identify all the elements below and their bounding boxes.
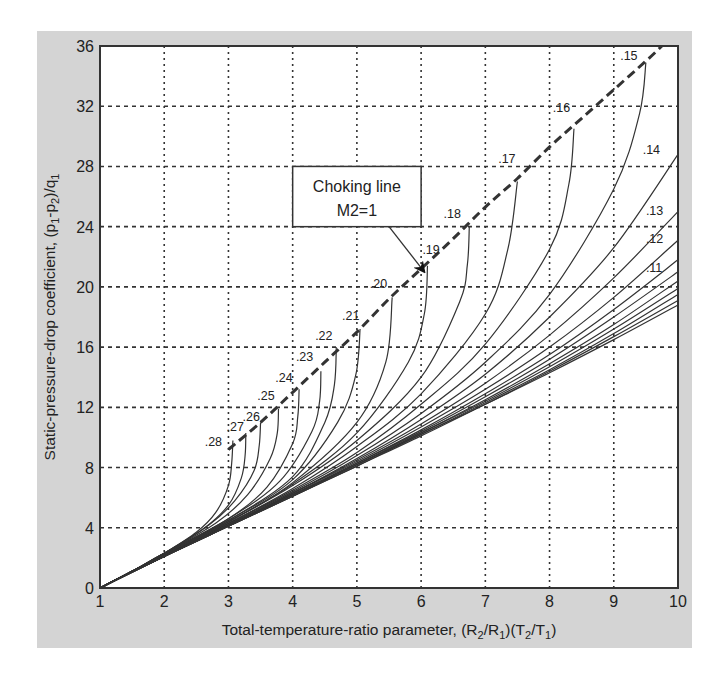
curve-label: .19 xyxy=(422,243,439,257)
y-tick-label: 8 xyxy=(85,460,94,477)
curve-label: .26 xyxy=(243,410,260,424)
curve-label: .17 xyxy=(498,152,515,166)
y-tick-label: 28 xyxy=(76,158,94,175)
curve-label: .16 xyxy=(553,101,570,115)
x-tick-label: 4 xyxy=(288,593,297,610)
curve-label: .18 xyxy=(444,207,461,221)
x-axis-ticks: 12345678910 xyxy=(96,593,687,610)
annotation-text-line1: Choking line xyxy=(313,178,401,195)
y-tick-label: 12 xyxy=(76,399,94,416)
chart: .28.27.26.25.24.23.22.21.20.19.18.17.16.… xyxy=(37,31,692,648)
y-axis-ticks: 04812162024283236 xyxy=(76,38,94,597)
curve-label: .11 xyxy=(646,261,662,275)
x-tick-label: 7 xyxy=(481,593,490,610)
curve-label: .21 xyxy=(342,309,359,323)
y-tick-label: 24 xyxy=(76,219,94,236)
y-tick-label: 16 xyxy=(76,339,94,356)
curve-label: .23 xyxy=(296,350,313,364)
x-tick-label: 10 xyxy=(669,593,687,610)
curve-label: .28 xyxy=(205,435,222,449)
y-tick-label: 0 xyxy=(85,580,94,597)
x-tick-label: 3 xyxy=(224,593,233,610)
y-axis-label: Static-pressure-drop coefficient, (p1-p2… xyxy=(41,174,61,461)
curve-label: .20 xyxy=(370,277,387,291)
curve-label: .27 xyxy=(227,420,244,434)
y-tick-label: 32 xyxy=(76,98,94,115)
y-tick-label: 20 xyxy=(76,279,94,296)
x-tick-label: 2 xyxy=(160,593,169,610)
x-tick-label: 6 xyxy=(417,593,426,610)
figure-panel: .28.27.26.25.24.23.22.21.20.19.18.17.16.… xyxy=(37,31,692,648)
x-tick-label: 8 xyxy=(545,593,554,610)
x-tick-label: 5 xyxy=(352,593,361,610)
y-tick-label: 36 xyxy=(76,38,94,55)
curve-label: .15 xyxy=(620,49,637,63)
curve-label: .14 xyxy=(643,143,660,157)
curve-label: .12 xyxy=(646,232,663,246)
y-tick-label: 4 xyxy=(85,520,94,537)
curve-label: .24 xyxy=(275,371,292,385)
annotation-text-line2: M2=1 xyxy=(337,202,378,219)
plot-area xyxy=(100,46,678,588)
curve-label: .22 xyxy=(315,329,332,343)
curve-label: .13 xyxy=(646,204,663,218)
x-tick-label: 9 xyxy=(609,593,618,610)
x-axis-label: Total-temperature-ratio parameter, (R2/R… xyxy=(222,621,557,641)
x-tick-label: 1 xyxy=(96,593,105,610)
curve-label: .25 xyxy=(257,389,274,403)
